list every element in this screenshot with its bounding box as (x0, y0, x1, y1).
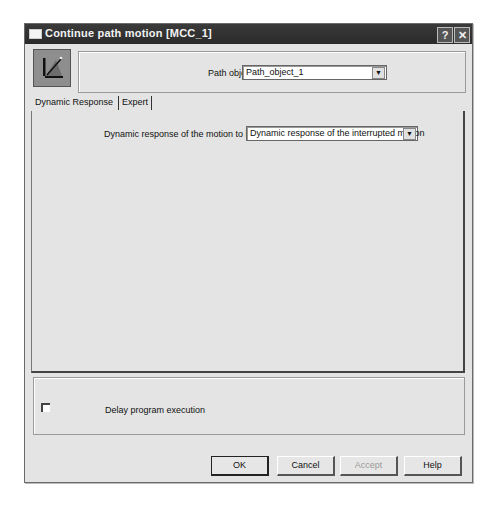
tab-content-dynamic-response: Dynamic response of the motion to be Dyn… (31, 111, 465, 373)
window-icon (29, 29, 42, 39)
accept-button[interactable]: Accept (340, 456, 398, 476)
delay-program-checkbox[interactable] (41, 403, 50, 412)
dynamic-response-dropdown[interactable]: Dynamic response of the interrupted moti… (246, 126, 418, 141)
tab-divider (118, 96, 119, 110)
dynamic-response-value: Dynamic response of the interrupted moti… (250, 128, 425, 138)
tab-divider (151, 96, 152, 110)
tab-dynamic-response[interactable]: Dynamic Response (35, 97, 113, 107)
title-bar[interactable]: Continue path motion [MCC_1] ? ✕ (25, 24, 472, 44)
ok-button[interactable]: OK (211, 456, 269, 476)
path-object-dropdown[interactable]: Path_object_1 ▼ (242, 65, 387, 80)
path-motion-icon (33, 49, 71, 87)
close-button[interactable]: ✕ (454, 27, 470, 43)
chevron-down-icon[interactable]: ▼ (372, 67, 385, 79)
help-title-button[interactable]: ? (437, 27, 453, 43)
path-object-value: Path_object_1 (246, 67, 304, 77)
tab-expert[interactable]: Expert (122, 97, 148, 107)
dialog-window: Continue path motion [MCC_1] ? ✕ Path ob… (24, 23, 473, 483)
window-title: Continue path motion [MCC_1] (45, 27, 212, 39)
cancel-button[interactable]: Cancel (277, 456, 335, 476)
help-button[interactable]: Help (404, 456, 462, 476)
delay-program-label: Delay program execution (105, 405, 205, 415)
dynamic-response-label: Dynamic response of the motion to be (104, 129, 256, 139)
header-panel: Path object Path_object_1 ▼ (78, 51, 466, 93)
chevron-down-icon[interactable]: ▼ (403, 128, 416, 140)
delay-panel: Delay program execution (33, 377, 465, 435)
